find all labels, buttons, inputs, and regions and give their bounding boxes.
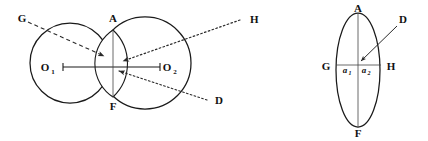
ray-d-line (119, 71, 207, 100)
geometry-figure: G A F H D O 1 O 2 (0, 0, 428, 141)
label-o1: O 1 (41, 61, 56, 76)
label-a2-base: a (362, 65, 367, 75)
label-h-left: H (250, 13, 259, 25)
label-a2: a 2 (362, 65, 371, 76)
label-a-left: A (109, 12, 117, 24)
ray-h-line (123, 20, 240, 61)
label-a2-subscript: 2 (367, 70, 371, 76)
label-g-left: G (18, 12, 27, 24)
label-o2: O 2 (163, 61, 178, 76)
lens-region (95, 30, 128, 97)
label-o2-subscript: 2 (173, 68, 177, 76)
label-o2-base: O (163, 61, 172, 73)
label-d-left: D (215, 94, 223, 106)
label-a1-base: a (343, 65, 348, 75)
label-g-right: G (322, 60, 331, 72)
label-o1-subscript: 1 (51, 68, 55, 76)
label-f-right: F (355, 127, 362, 139)
label-f-left: F (110, 100, 117, 112)
label-o1-base: O (41, 61, 50, 73)
label-a-right: A (354, 2, 362, 14)
figure-root: G A F H D O 1 O 2 (0, 0, 428, 141)
label-h-right: H (387, 60, 396, 72)
label-a1-subscript: 1 (349, 70, 352, 76)
label-a1: a 1 (343, 65, 352, 76)
lens-detail-group: A F D G H a 1 a 2 (322, 2, 407, 139)
label-d-right: D (399, 13, 407, 25)
overlapping-circles-group: G A F H D O 1 O 2 (18, 12, 259, 112)
ray-g-line (28, 22, 104, 56)
